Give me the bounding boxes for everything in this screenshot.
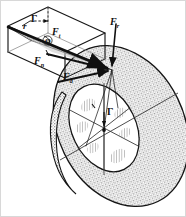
label-force-normal-subscript: n [41,61,44,68]
label-force-normal: Fn [34,56,44,68]
force-diagram-figure: Γ r Ft φ Fn Fa Fr Γ [0,0,186,217]
label-force-axial-symbol: F [63,71,70,82]
label-circulation-center: Γ [107,107,113,117]
label-force-axial: Fa [63,72,73,84]
diagram-canvas [0,0,186,217]
label-force-normal-symbol: F [34,55,41,66]
label-force-axial-subscript: a [70,77,73,84]
label-force-tangential-subscript: t [59,32,61,39]
label-force-resultant-symbol: F [110,16,117,27]
label-force-resultant-subscript: r [117,22,119,29]
label-circulation-top: Γ [31,14,37,24]
label-force-tangential: Ft [52,27,60,39]
label-force-tangential-symbol: F [52,26,59,37]
label-angle-phi: φ [45,36,51,45]
label-radius: r [23,22,27,31]
label-force-resultant: Fr [110,17,119,29]
